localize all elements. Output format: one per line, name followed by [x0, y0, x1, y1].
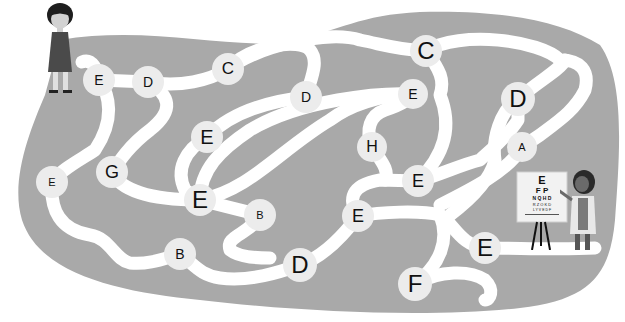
svg-text:F P: F P: [536, 186, 549, 195]
maze-node-h[interactable]: H: [357, 132, 387, 162]
maze-node-e[interactable]: E: [191, 121, 223, 153]
maze-node-c[interactable]: C: [212, 53, 244, 85]
maze-node-e[interactable]: E: [398, 79, 428, 109]
maze-node-d[interactable]: D: [132, 66, 164, 98]
maze-puzzle: EDCDCEDEHAEGEEBEBDEF E F P N Q H D R Z O…: [0, 0, 625, 322]
svg-text:L Y V E D F: L Y V E D F: [533, 208, 551, 212]
girl-character-icon: [38, 2, 82, 96]
maze-node-e[interactable]: E: [83, 64, 115, 96]
maze-node-b[interactable]: B: [164, 238, 196, 270]
maze-node-e[interactable]: E: [184, 184, 216, 216]
maze-node-d[interactable]: D: [290, 81, 322, 113]
maze-node-d[interactable]: D: [283, 248, 317, 282]
maze-node-a[interactable]: A: [507, 132, 537, 162]
maze-node-c[interactable]: C: [410, 35, 442, 67]
svg-text:N Q H D: N Q H D: [533, 195, 552, 201]
svg-text:E: E: [538, 174, 545, 186]
maze-node-d[interactable]: D: [501, 82, 535, 116]
maze-node-g[interactable]: G: [96, 156, 128, 188]
maze-node-e[interactable]: E: [402, 165, 434, 197]
maze-node-b[interactable]: B: [244, 199, 276, 231]
eye-doctor-icon: [560, 168, 600, 252]
maze-node-e[interactable]: E: [469, 232, 501, 264]
maze-node-f[interactable]: F: [398, 267, 432, 301]
svg-text:R Z O K D: R Z O K D: [533, 202, 552, 207]
maze-node-e[interactable]: E: [36, 166, 68, 198]
maze-node-e[interactable]: E: [342, 200, 374, 232]
